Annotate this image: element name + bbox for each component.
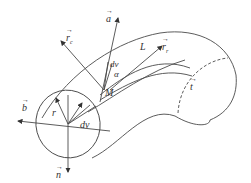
b-vector-line [18,121,110,131]
label-n: n [56,170,61,180]
label-rr: rr [162,42,168,54]
tube-outer-bottom [92,114,210,158]
label-rc: rc [66,33,73,45]
r-vector-line [56,98,68,124]
rc-vector-line [61,41,104,90]
label-dv-bottom: dv [80,120,89,130]
label-L: L [140,42,146,52]
label-r: r [52,108,56,118]
label-dv-top: dv [110,60,119,69]
label-b: b [22,103,27,113]
label-M: M [105,88,113,98]
tube-diagram [0,0,251,183]
label-a: a [106,14,111,24]
label-t: t [190,82,193,92]
label-alpha: α [114,70,119,79]
